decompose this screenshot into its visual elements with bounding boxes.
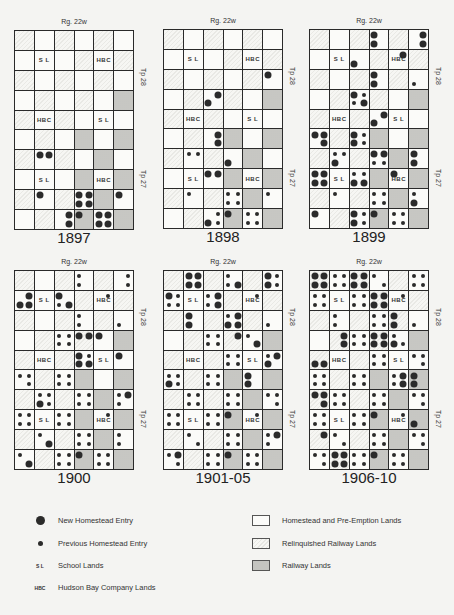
section-cell <box>370 50 389 69</box>
section-cell <box>184 430 203 449</box>
section-cell <box>350 410 369 429</box>
previous-entry-dot-icon <box>362 453 366 457</box>
township-27-label: Tp 27 <box>140 170 147 188</box>
previous-entry-dot-icon <box>382 354 386 358</box>
section-cell <box>114 351 133 370</box>
new-entry-dot-icon <box>45 152 52 159</box>
section-cell <box>35 450 54 469</box>
section-cell <box>164 50 183 69</box>
previous-entry-dot-icon <box>392 374 396 378</box>
previous-entry-dot-icon <box>392 221 396 225</box>
section-cell <box>310 271 329 290</box>
new-entry-dot-icon <box>360 273 367 280</box>
previous-entry-dot-icon <box>77 393 81 397</box>
township-27-label: Tp 27 <box>140 410 147 428</box>
new-entry-dot-icon <box>371 71 378 78</box>
section-cell <box>389 311 408 330</box>
previous-entry-dot-icon <box>126 283 130 287</box>
section-cell <box>15 31 34 50</box>
section-cell <box>389 149 408 168</box>
previous-entry-dot-icon <box>176 422 180 426</box>
new-entry-dot-icon <box>311 273 318 280</box>
section-cell <box>114 170 133 189</box>
section-cell <box>35 370 54 389</box>
previous-entry-dot-icon <box>352 101 356 105</box>
new-entry-dot-icon <box>360 281 367 288</box>
section-cell <box>204 410 223 429</box>
previous-entry-dot-icon <box>106 462 110 466</box>
previous-entry-dot-icon <box>372 393 376 397</box>
previous-entry-dot-icon <box>322 453 326 457</box>
new-entry-dot-icon <box>76 332 83 339</box>
section-cell <box>263 311 282 330</box>
previous-entry-dot-icon <box>421 283 425 287</box>
previous-entry-dot-icon <box>77 283 81 287</box>
new-entry-dot-icon <box>26 301 33 308</box>
section-cell <box>15 450 34 469</box>
new-entry-dot-icon <box>234 321 241 328</box>
section-cell <box>114 31 133 50</box>
previous-entry-dot-icon <box>38 393 42 397</box>
section-cell <box>263 430 282 449</box>
new-entry-dot-icon <box>321 281 328 288</box>
new-entry-dot-icon <box>214 140 221 147</box>
previous-entry-dot-icon <box>372 402 376 406</box>
previous-entry-dot-icon <box>226 201 230 205</box>
hbc-lands-label: HBC <box>94 51 113 70</box>
section-cell <box>409 129 428 148</box>
legend-label: New Homestead Entry <box>58 516 133 525</box>
previous-entry-dot-icon <box>342 152 346 156</box>
school-lands-label: S L <box>243 110 262 129</box>
section-cell <box>263 331 282 350</box>
section-cell <box>114 370 133 389</box>
previous-entry-dot-icon <box>362 374 366 378</box>
section-cell <box>409 169 428 188</box>
section-cell <box>409 311 428 330</box>
section-cell <box>224 311 243 330</box>
new-entry-dot-icon <box>65 212 72 219</box>
section-cell <box>15 130 34 149</box>
section-cell <box>15 71 34 90</box>
section-cell <box>409 209 428 228</box>
new-entry-dot-icon <box>321 392 328 399</box>
new-entry-dot-icon <box>351 131 358 138</box>
legend-hbc-lands: HBC Hudson Bay Company Lands <box>30 583 156 592</box>
previous-entry-dot-icon <box>236 354 240 358</box>
section-cell <box>164 30 183 49</box>
previous-entry-dot-icon <box>246 212 250 216</box>
previous-entry-dot-icon <box>176 413 180 417</box>
section-cell <box>75 351 94 370</box>
previous-entry-dot-icon <box>246 221 250 225</box>
previous-entry-dot-icon <box>255 453 259 457</box>
section-cell <box>224 30 243 49</box>
section-cell <box>55 111 74 130</box>
section-cell <box>164 311 183 330</box>
section-cell <box>389 370 408 389</box>
previous-entry-dot-icon <box>216 334 220 338</box>
section-cell <box>35 331 54 350</box>
previous-entry-dot-icon <box>236 192 240 196</box>
section-cell <box>204 90 223 109</box>
section-cell <box>409 110 428 129</box>
new-entry-dot-icon <box>26 292 33 299</box>
legend-label: School Lands <box>58 561 103 570</box>
section-cell <box>114 51 133 70</box>
section-cell <box>263 149 282 168</box>
section-cell <box>184 129 203 148</box>
section-cell <box>94 210 113 229</box>
previous-entry-dot-icon <box>412 354 416 358</box>
new-entry-dot-icon <box>105 220 112 227</box>
previous-entry-dot-icon <box>412 323 416 327</box>
previous-entry-dot-icon <box>372 362 376 366</box>
section-cell <box>55 150 74 169</box>
previous-entry-dot-icon <box>87 433 91 437</box>
section-cell <box>94 311 113 330</box>
legend-label: Previous Homestead Entry <box>58 539 147 548</box>
section-cell <box>114 91 133 110</box>
previous-entry-dot-icon <box>126 274 130 278</box>
new-entry-dot-icon <box>351 219 358 226</box>
previous-entry-dot-icon <box>362 303 366 307</box>
section-cell <box>263 271 282 290</box>
section-cell <box>263 30 282 49</box>
previous-entry-dot-icon <box>255 221 259 225</box>
